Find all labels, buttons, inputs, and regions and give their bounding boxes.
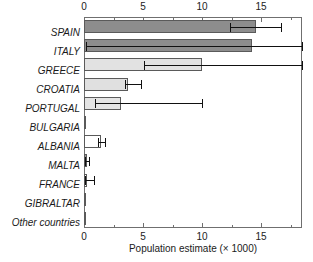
error-cap-high-malta	[89, 157, 90, 166]
tick-bottom-minor-12p5	[232, 225, 233, 228]
tick-bottom-minor-2p5	[114, 225, 115, 228]
category-label-malta: MALTA	[0, 160, 80, 171]
error-cap-low-italy	[86, 42, 87, 51]
error-cap-low-france	[85, 176, 86, 185]
tick-top-minor-17p5	[291, 17, 292, 20]
tick-top-major-15	[261, 17, 262, 22]
error-bar-france	[85, 180, 94, 181]
error-cap-high-italy	[302, 42, 303, 51]
error-bar-croatia	[125, 84, 140, 85]
tick-bottom-major-10	[202, 223, 203, 228]
error-cap-low-greece	[144, 61, 145, 70]
category-label-bulgaria: BULGARIA	[0, 122, 80, 133]
xtick-bottom-5: 5	[131, 231, 155, 242]
bar-gibraltar	[84, 193, 86, 206]
category-label-gibraltar: GIBRALTAR	[0, 198, 80, 209]
error-cap-high-france	[94, 176, 95, 185]
xtick-top-0: 0	[72, 1, 96, 12]
xtick-bottom-10: 10	[190, 231, 214, 242]
bar-croatia	[84, 78, 128, 91]
error-bar-greece	[144, 65, 302, 66]
category-label-italy: ITALY	[0, 46, 80, 57]
xtick-bottom-15: 15	[249, 231, 273, 242]
category-label-greece: GREECE	[0, 65, 80, 76]
xtick-top-10: 10	[190, 1, 214, 12]
error-cap-high-spain	[281, 23, 282, 32]
error-cap-low-portugal	[95, 99, 96, 108]
error-cap-high-croatia	[141, 80, 142, 89]
tick-bottom-major-5	[143, 223, 144, 228]
tick-bottom-major-15	[261, 223, 262, 228]
error-bar-spain	[230, 27, 281, 28]
bar-other-countries	[84, 212, 86, 225]
category-label-albania: ALBANIA	[0, 141, 80, 152]
population-bar-chart: 0 5 10 15 0 5 10 15 SPAIN ITALY GREECE C…	[0, 0, 313, 262]
category-label-portugal: PORTUGAL	[0, 103, 80, 114]
xtick-top-15: 15	[249, 1, 273, 12]
error-cap-low-spain	[230, 23, 231, 32]
category-label-croatia: CROATIA	[0, 84, 80, 95]
error-cap-high-albania	[105, 138, 106, 147]
error-cap-low-malta	[85, 157, 86, 166]
xtick-bottom-0: 0	[72, 231, 96, 242]
error-cap-high-greece	[302, 61, 303, 70]
error-bar-portugal	[95, 103, 203, 104]
error-cap-low-croatia	[125, 80, 126, 89]
tick-bottom-minor-7p5	[173, 225, 174, 228]
error-bar-italy	[86, 46, 302, 47]
category-label-spain: SPAIN	[0, 27, 80, 38]
tick-bottom-minor-17p5	[291, 225, 292, 228]
error-cap-high-portugal	[202, 99, 203, 108]
error-bar-albania	[98, 142, 105, 143]
x-axis-title: Population estimate (× 1000)	[84, 243, 302, 254]
error-cap-low-albania	[98, 138, 99, 147]
category-label-france: FRANCE	[0, 179, 80, 190]
category-label-other: Other countries	[0, 217, 80, 228]
bar-bulgaria	[84, 116, 86, 129]
xtick-top-5: 5	[131, 1, 155, 12]
